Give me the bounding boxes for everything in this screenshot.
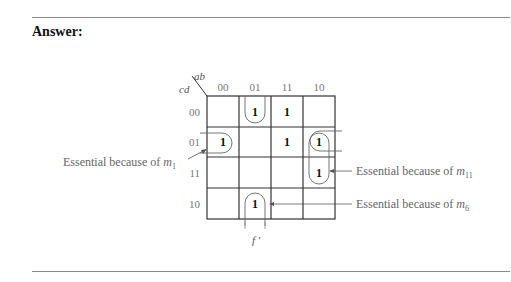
- annotation-m6: Essential because of m6: [356, 197, 469, 213]
- cell-m12: 1: [284, 105, 290, 119]
- row-header-01: 01: [189, 136, 200, 148]
- col-header-11: 11: [282, 81, 293, 93]
- annotation-m1: Essential because of m1: [63, 155, 176, 171]
- cell-m4: 1: [252, 105, 258, 119]
- row-variable-label: cd: [179, 83, 190, 95]
- cell-m13: 1: [284, 135, 290, 149]
- row-header-00: 00: [189, 106, 201, 118]
- function-label: f ′: [252, 234, 261, 246]
- col-header-00: 00: [218, 81, 230, 93]
- row-header-11: 11: [189, 167, 200, 179]
- kmap-grid: [207, 96, 335, 219]
- col-header-01: 01: [250, 81, 261, 93]
- cell-m11: 1: [316, 166, 322, 180]
- col-variable-label: ab: [194, 70, 206, 82]
- karnaugh-map-diagram: ab cd 00 01 11 10 00 01 11 10 1 1 1 1 1 …: [0, 0, 511, 282]
- cell-m1: 1: [220, 135, 226, 149]
- annotation-m11: Essential because of m11: [356, 164, 473, 180]
- arrowhead-m11: [329, 169, 334, 173]
- bottom-divider: [32, 271, 510, 272]
- row-header-10: 10: [189, 198, 201, 210]
- cell-m9: 1: [316, 135, 322, 149]
- col-header-10: 10: [314, 81, 326, 93]
- cell-m6: 1: [252, 197, 258, 211]
